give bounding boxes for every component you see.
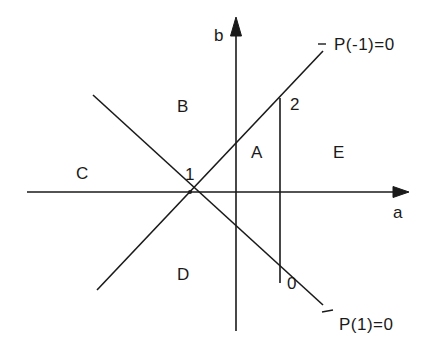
a-axis-label: a xyxy=(393,204,402,221)
leader-p-1 xyxy=(322,310,333,312)
a-axis-arrowhead xyxy=(393,187,409,198)
region-d: D xyxy=(177,266,189,283)
b-axis-arrowhead xyxy=(231,17,242,36)
label-p-1: P(1)=0 xyxy=(339,316,394,333)
label-p-minus-1: P(-1)=0 xyxy=(334,36,395,53)
point-label-1: 1 xyxy=(185,166,194,183)
region-c: C xyxy=(76,165,88,182)
region-e: E xyxy=(333,144,344,161)
b-axis-label: b xyxy=(214,27,223,44)
point-label-2: 2 xyxy=(290,96,299,113)
region-a: A xyxy=(251,144,262,161)
stability-region-diagram: b a P(-1)=0 P(1)=0 B A E C D 1 2 0 xyxy=(0,0,434,355)
line-p-minus-1 xyxy=(97,51,323,290)
intersection-point-1 xyxy=(188,190,192,194)
region-b: B xyxy=(177,98,188,115)
point-label-0: 0 xyxy=(287,275,296,292)
